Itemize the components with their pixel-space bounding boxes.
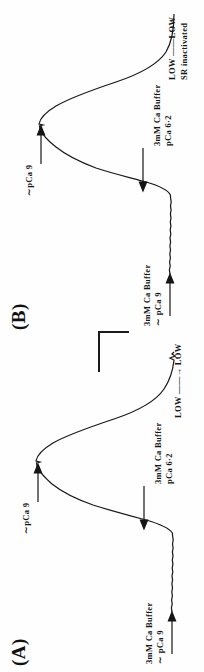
panel-a-arrow-relax <box>34 464 41 502</box>
panel-a-relax-label: ∼pCa 9 <box>21 503 32 534</box>
panel-b-start-label: 3mM Ca Buffer ∼ pCa 9 <box>142 265 164 327</box>
panel-a: (A) 3mM Ca Buffer ∼ pCa 9 3mM Ca Buffer <box>0 336 204 672</box>
panel-a-arrow-activate <box>140 486 147 529</box>
panel-a-activate-line2: pCa 6·2 <box>164 423 175 485</box>
panel-a-start-line1: 3mM Ca Buffer <box>144 603 155 665</box>
panel-a-start-label: 3mM Ca Buffer ∼ pCa 9 <box>144 603 166 665</box>
panel-b-arrow-start <box>166 274 173 316</box>
panel-a-activate-line1: 3mM Ca Buffer <box>153 423 164 485</box>
panel-b-footer-line2: SR inactivated <box>178 17 190 80</box>
panel-b-activate-line2: pCa 6·2 <box>163 85 174 147</box>
panel-b-arrow-activate <box>139 148 146 191</box>
panel-b-arrow-relax <box>37 126 44 164</box>
panel-b-footer: LOW ——LOW SR inactivated <box>166 17 190 80</box>
panel-a-arrow-start <box>168 612 175 654</box>
panel-b-relax-label: ∼pCa 9 <box>24 165 35 196</box>
panel-b-footer-line1: LOW ——LOW <box>166 17 178 80</box>
panel-b-activate-line1: 3mM Ca Buffer <box>152 85 163 147</box>
panel-a-footer-line1: LOW ——→ LOW <box>172 344 184 418</box>
panel-a-activate-label: 3mM Ca Buffer pCa 6·2 <box>153 423 175 485</box>
figure-canvas: (B) 3mM Ca Buffer ∼ pCa 9 <box>0 0 204 672</box>
panel-b-activate-label: 3mM Ca Buffer pCa 6·2 <box>152 85 174 147</box>
panel-b-start-line1: 3mM Ca Buffer <box>142 265 153 327</box>
panel-a-start-line2: ∼ pCa 9 <box>155 603 166 665</box>
panel-b: (B) 3mM Ca Buffer ∼ pCa 9 <box>0 0 204 336</box>
panel-b-start-line2: ∼ pCa 9 <box>153 265 164 327</box>
calibration-scale-bar <box>96 331 130 373</box>
panel-a-footer: LOW ——→ LOW <box>172 344 184 418</box>
